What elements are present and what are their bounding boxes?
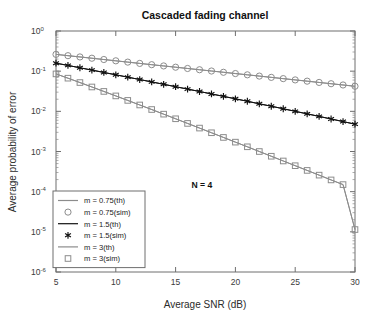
legend-label: m = 3(sim) xyxy=(84,254,121,263)
x-tick-label: 20 xyxy=(231,277,241,287)
legend-label: m = 3(th) xyxy=(84,243,115,252)
legend-label: m = 0.75(th) xyxy=(84,196,126,205)
x-tick-label: 10 xyxy=(111,277,121,287)
y-tick-label: 100 xyxy=(31,26,44,37)
y-axis-label: Average probability of error xyxy=(7,91,18,212)
chart-legend[interactable]: m = 0.75(th)m = 0.75(sim)m = 1.5(th)m = … xyxy=(53,191,145,268)
legend-label: m = 1.5(sim) xyxy=(84,231,127,240)
y-tick-label: 10-1 xyxy=(31,66,46,77)
legend-label: m = 1.5(th) xyxy=(84,220,121,229)
chart-canvas: Cascaded fading channel 10010-110-210-31… xyxy=(0,0,375,321)
chart-title: Cascaded fading channel xyxy=(142,9,269,21)
y-tick-label: 10-6 xyxy=(31,267,46,278)
x-tick-label: 5 xyxy=(54,277,59,287)
chart-figure: Cascaded fading channel 10010-110-210-31… xyxy=(0,0,375,321)
x-axis-label: Average SNR (dB) xyxy=(164,299,247,310)
annotation-n-value: N = 4 xyxy=(192,180,213,190)
y-tick-label: 10-4 xyxy=(31,186,46,197)
y-tick-label: 10-3 xyxy=(31,146,46,157)
x-tick-label: 25 xyxy=(290,277,300,287)
legend-label: m = 0.75(sim) xyxy=(84,208,131,217)
x-tick-label: 15 xyxy=(171,277,181,287)
y-tick-label: 10-5 xyxy=(31,226,46,237)
y-tick-label: 10-2 xyxy=(31,106,46,117)
x-tick-label: 30 xyxy=(350,277,360,287)
chart-title-group: Cascaded fading channel xyxy=(142,9,269,21)
chart-annotations: N = 4 xyxy=(192,180,213,190)
series-m-0-75-sim- xyxy=(53,51,358,89)
